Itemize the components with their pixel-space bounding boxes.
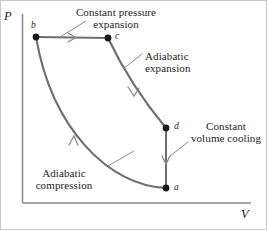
y-axis-label: P: [4, 10, 12, 23]
x-axis-label: V: [241, 208, 249, 221]
point-a: [163, 185, 170, 192]
figure-frame: [1, 1, 267, 230]
path-constant-pressure-expansion: [36, 37, 108, 38]
point-label-d: d: [174, 122, 179, 132]
point-b: [33, 34, 40, 41]
point-c: [105, 35, 112, 42]
annotation-adiabatic-compression: Adiabatic compression: [18, 167, 110, 192]
annotation-adiabatic-expansion: Adiabatic expansion: [145, 50, 233, 75]
point-d: [163, 125, 170, 132]
pv-diagram-figure: P V a b c d Constant pressure expansion …: [0, 0, 267, 230]
point-label-a: a: [174, 183, 179, 193]
pv-diagram-canvas: [0, 0, 267, 230]
point-label-b: b: [31, 21, 36, 31]
point-label-c: c: [115, 32, 119, 42]
annotation-constant-pressure-expansion: Constant pressure expansion: [62, 6, 170, 31]
annotation-constant-volume-cooling: Constant volume cooling: [186, 120, 266, 145]
